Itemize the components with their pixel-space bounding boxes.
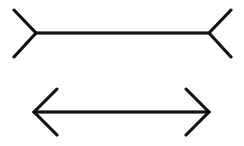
fin-line [34, 112, 57, 135]
arrowheads-line [34, 89, 209, 135]
fin-line [186, 89, 209, 112]
fin-line [14, 33, 36, 57]
muller-lyer-diagram [0, 0, 244, 146]
fin-line [186, 112, 209, 135]
fin-line [209, 10, 231, 33]
fin-line [209, 33, 231, 57]
fin-line [34, 89, 57, 112]
fin-line [14, 10, 36, 33]
fins-out-line [14, 10, 231, 57]
